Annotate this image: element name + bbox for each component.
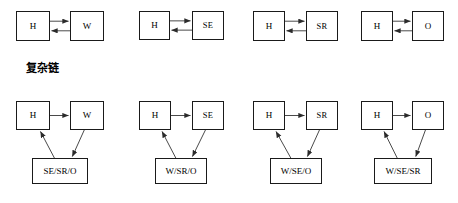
node-label: W: [83, 111, 92, 120]
simple-node-source-3[interactable]: H: [253, 11, 285, 41]
simple-node-target-2[interactable]: SE: [192, 11, 224, 40]
simple-node-target-3[interactable]: SR: [306, 11, 338, 41]
complex-node-target-1[interactable]: W: [70, 101, 104, 130]
node-label: W: [83, 22, 92, 31]
node-label: O: [425, 22, 432, 31]
simple-node-target-4[interactable]: O: [412, 11, 444, 41]
arrow-target-to-set-2: [192, 130, 205, 157]
arrow-target-to-set-3: [307, 130, 319, 157]
arrow-target-to-set-4: [416, 130, 426, 157]
node-label: H: [30, 22, 37, 31]
diagram-canvas: H W H SE H SR H O 复杂链 H W SE/SR/O H SE W…: [0, 0, 458, 203]
complex-node-target-3[interactable]: SR: [306, 101, 338, 130]
node-label: SE: [203, 111, 213, 120]
simple-node-source-4[interactable]: H: [361, 11, 393, 41]
node-label: H: [266, 22, 273, 31]
complex-node-set-2[interactable]: W/SR/O: [155, 158, 207, 184]
arrow-target-to-set-1: [72, 130, 84, 157]
node-label: H: [151, 21, 158, 30]
node-label: H: [374, 111, 381, 120]
simple-node-source-2[interactable]: H: [139, 11, 170, 40]
complex-node-set-3[interactable]: W/SE/O: [270, 158, 322, 184]
node-label: H: [374, 22, 381, 31]
complex-node-target-2[interactable]: SE: [192, 101, 224, 130]
node-label: W/SR/O: [165, 167, 196, 176]
node-label: W/SE/SR: [385, 167, 420, 176]
node-label: W/SE/O: [281, 167, 312, 176]
complex-node-source-1[interactable]: H: [16, 101, 50, 130]
arrow-set-to-source-2: [162, 132, 176, 159]
node-label: H: [152, 111, 159, 120]
complex-node-target-4[interactable]: O: [412, 101, 444, 130]
complex-node-source-2[interactable]: H: [139, 101, 171, 130]
complex-node-set-4[interactable]: W/SE/SR: [374, 158, 432, 184]
node-label: SE/SR/O: [43, 167, 76, 176]
node-label: SE: [203, 21, 213, 30]
complex-node-source-3[interactable]: H: [253, 101, 285, 130]
arrow-set-to-source-3: [276, 132, 291, 159]
arrow-set-to-source-1: [40, 132, 54, 159]
node-label: O: [425, 111, 432, 120]
section-label-complex-chain: 复杂链: [26, 63, 59, 74]
node-label: SR: [317, 22, 328, 31]
node-label: H: [30, 111, 37, 120]
node-label: H: [266, 111, 273, 120]
simple-node-source-1[interactable]: H: [16, 11, 50, 41]
complex-node-source-4[interactable]: H: [361, 101, 393, 130]
node-label: SR: [317, 111, 328, 120]
simple-node-target-1[interactable]: W: [70, 11, 104, 41]
complex-node-set-1[interactable]: SE/SR/O: [32, 158, 88, 184]
arrow-set-to-source-4: [384, 132, 397, 159]
